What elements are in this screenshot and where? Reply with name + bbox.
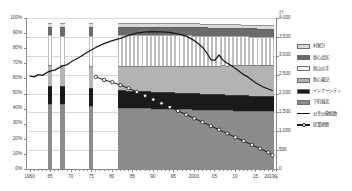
- bar-segment: [270, 111, 274, 169]
- legend-label: 新心北区: [313, 56, 329, 60]
- bar: [270, 25, 274, 169]
- legend-swatch: [297, 78, 310, 83]
- legend-item: 下町城北: [297, 97, 351, 108]
- legend-label: 新心東記: [313, 78, 329, 82]
- bar-segment: [270, 96, 274, 111]
- x-tick-mark-minor: [128, 170, 129, 172]
- series-marker: [102, 78, 105, 81]
- x-tick-mark-minor: [260, 170, 261, 172]
- bar-segment: [89, 27, 93, 36]
- x-tick-mark: [235, 170, 236, 173]
- x-tick-mark-minor: [95, 170, 96, 172]
- x-tick-mark-minor: [219, 170, 220, 172]
- x-tick-mark: [272, 170, 273, 173]
- y-left-tick-label: 50%: [0, 91, 22, 96]
- legend-item: インナーシティ: [297, 86, 351, 97]
- bar-segment: [60, 23, 64, 27]
- bar-segment: [48, 86, 52, 104]
- legend-item: 民業総数: [297, 119, 351, 130]
- bar-segment: [48, 65, 52, 86]
- chart-legend: 村家計新心北区新山の手新心東記インナーシティ下町城北公幸公働統数民業総数: [297, 41, 351, 131]
- x-tick-mark-minor: [169, 170, 170, 172]
- bar-segment: [60, 86, 64, 104]
- x-tick-mark-minor: [140, 170, 141, 172]
- x-tick-mark-minor: [268, 170, 269, 172]
- x-tick-mark: [173, 170, 174, 173]
- bar-segment: [60, 36, 64, 65]
- legend-marker: [302, 123, 306, 127]
- x-tick-mark-minor: [198, 170, 199, 172]
- x-tick-mark-minor: [104, 170, 105, 172]
- y-right-tick-mark: [277, 75, 279, 76]
- x-tick-mark-minor: [182, 170, 183, 172]
- x-tick-mark: [71, 170, 72, 173]
- bar-segment: [270, 25, 274, 29]
- bar-segment: [89, 23, 93, 27]
- y-left-tick-label: 0%: [0, 167, 22, 172]
- legend-item: 新山の手: [297, 63, 351, 74]
- x-tick-mark: [194, 170, 195, 173]
- x-tick-mark-minor: [190, 170, 191, 172]
- x-tick-mark: [214, 170, 215, 173]
- bar: [60, 23, 64, 169]
- x-tick-mark: [91, 170, 92, 173]
- x-tick-mark-minor: [206, 170, 207, 172]
- legend-label: 下町城北: [313, 100, 329, 104]
- x-tick-mark-minor: [79, 170, 80, 172]
- bar-segment: [60, 65, 64, 86]
- legend-swatch: [297, 89, 310, 94]
- x-tick-mark-minor: [145, 170, 146, 172]
- legend-swatch: [297, 44, 310, 49]
- legend-label: インナーシティ: [313, 89, 341, 93]
- x-tick-mark-minor: [264, 170, 265, 172]
- y-left-tick-label: 10%: [0, 152, 22, 157]
- x-tick-mark-minor: [186, 170, 187, 172]
- legend-swatch: [297, 66, 310, 71]
- x-tick-mark-minor: [223, 170, 224, 172]
- legend-line-swatch: [297, 111, 310, 116]
- plot-area: [26, 18, 277, 169]
- bar: [89, 23, 93, 169]
- x-tick-mark-minor: [239, 170, 240, 172]
- x-tick-mark-minor: [34, 170, 35, 172]
- y-right-tick-mark: [277, 94, 279, 95]
- right-axis-unit-label: 戸: [279, 9, 284, 15]
- bar-segment: [270, 29, 274, 37]
- bar-segment: [270, 37, 274, 65]
- bar-segment: [89, 106, 93, 169]
- legend-item: 公幸公働統数: [297, 108, 351, 119]
- y-left-tick-label: 20%: [0, 137, 22, 142]
- x-tick-mark-minor: [177, 170, 178, 172]
- x-tick-mark-minor: [157, 170, 158, 172]
- legend-item: 新心北区: [297, 52, 351, 63]
- y-left-tick-label: 80%: [0, 46, 22, 51]
- x-tick-mark: [153, 170, 154, 173]
- x-tick-mark: [112, 170, 113, 173]
- x-tick-mark-minor: [231, 170, 232, 172]
- x-tick-mark: [132, 170, 133, 173]
- bar-segment: [89, 36, 93, 66]
- left-axis-line: [26, 18, 27, 170]
- y-left-tick-label: 40%: [0, 106, 22, 111]
- legend-line-swatch: [297, 122, 310, 127]
- legend-label: 民業総数: [313, 123, 329, 127]
- legend-line: [297, 113, 310, 114]
- x-tick-mark-minor: [120, 170, 121, 172]
- x-tick-mark-minor: [42, 170, 43, 172]
- bar-segment: [48, 35, 52, 64]
- y-right-tick-mark: [277, 150, 279, 151]
- y-right-tick-label: 3,500: [279, 35, 305, 40]
- legend-label: 新山の手: [313, 67, 329, 71]
- legend-item: 村家計: [297, 41, 351, 52]
- x-tick-mark-minor: [75, 170, 76, 172]
- x-tick-mark: [50, 170, 51, 173]
- x-tick-mark-minor: [136, 170, 137, 172]
- legend-label: 村家計: [313, 44, 325, 48]
- y-right-tick-label: 4,000: [279, 16, 305, 21]
- legend-label: 公幸公働統数: [313, 112, 337, 116]
- y-left-tick-label: 90%: [0, 31, 22, 36]
- legend-swatch: [297, 55, 310, 60]
- x-tick-mark-minor: [116, 170, 117, 172]
- y-left-tick-label: 60%: [0, 76, 22, 81]
- x-tick-mark-minor: [99, 170, 100, 172]
